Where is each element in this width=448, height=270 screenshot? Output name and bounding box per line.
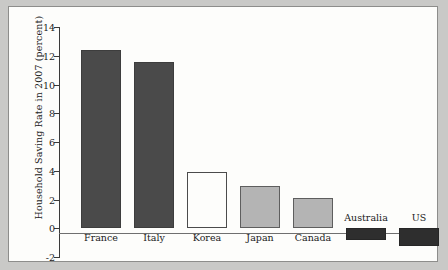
y-tick-label: 8 xyxy=(49,108,55,119)
category-label: France xyxy=(84,232,118,243)
bar xyxy=(240,186,280,228)
y-tick-label: 14 xyxy=(43,22,55,33)
category-label: Italy xyxy=(143,232,165,243)
chart-panel: Household Saving Rate in 2007 (percent) … xyxy=(8,6,438,262)
category-label: Australia xyxy=(344,212,388,223)
category-label: Japan xyxy=(246,232,273,243)
chart-figure: Household Saving Rate in 2007 (percent) … xyxy=(0,0,448,270)
y-tick-label: -2 xyxy=(46,252,55,263)
y-tick-label: 4 xyxy=(49,165,55,176)
bar xyxy=(187,172,227,228)
y-tick-label: 12 xyxy=(43,50,55,61)
category-label: Korea xyxy=(193,232,221,243)
bar xyxy=(399,228,439,245)
bar xyxy=(346,228,386,240)
y-tick-label: 2 xyxy=(49,194,55,205)
plot-area: 14121086420-2 FranceItalyKoreaJapanCanad… xyxy=(59,21,439,263)
y-tick-label: 10 xyxy=(43,79,55,90)
y-axis-label: Household Saving Rate in 2007 (percent) xyxy=(33,30,44,220)
bar xyxy=(293,198,333,228)
category-label: US xyxy=(412,212,427,223)
y-tick-label: 6 xyxy=(49,137,55,148)
y-tick-label: 0 xyxy=(49,223,55,234)
bar xyxy=(81,50,121,228)
bar xyxy=(134,62,174,229)
category-label: Canada xyxy=(295,232,331,243)
